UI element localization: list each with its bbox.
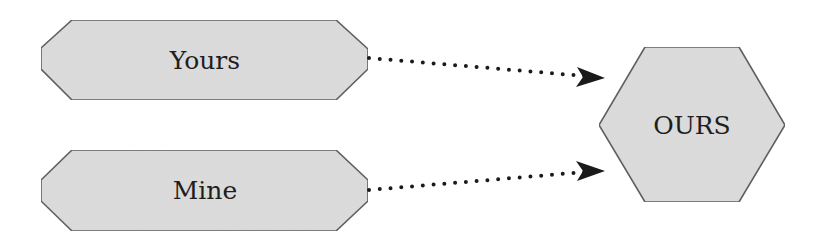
- dotted-line: [369, 172, 585, 190]
- diagram-canvas: Yours Mine OURS: [0, 0, 818, 240]
- node-yours: Yours: [41, 20, 368, 100]
- arrowhead-icon: [576, 161, 605, 181]
- arrowhead-icon: [576, 67, 605, 87]
- node-ours: OURS: [599, 47, 785, 202]
- edge-mine-to-ours: [369, 161, 605, 190]
- node-label-ours: OURS: [653, 111, 731, 140]
- node-label-yours: Yours: [169, 46, 240, 75]
- node-mine: Mine: [41, 150, 368, 231]
- node-label-mine: Mine: [173, 176, 238, 205]
- edge-yours-to-ours: [369, 58, 605, 87]
- dotted-line: [369, 58, 585, 76]
